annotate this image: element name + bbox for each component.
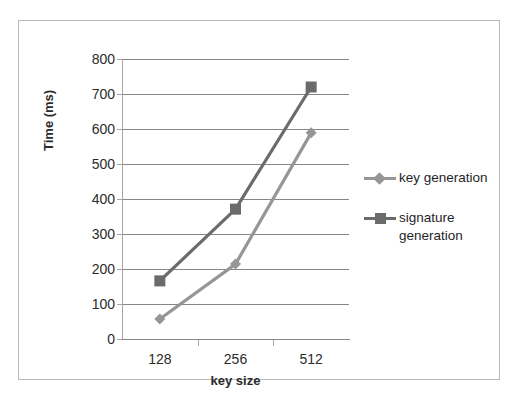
series-line-signature-generation (160, 87, 311, 281)
data-point-marker (230, 204, 241, 215)
legend-item-signature-generation[interactable]: signature generation (364, 209, 494, 245)
data-point-marker (154, 275, 165, 286)
legend-marker-diamond-icon (364, 170, 396, 186)
chart-frame: 0100200300400500600700800 Time (ms) 1282… (18, 20, 500, 380)
legend-item-key-generation[interactable]: key generation (364, 169, 494, 187)
legend-label-key-generation: key generation (399, 169, 488, 187)
legend-label-signature-generation: signature generation (399, 209, 463, 245)
series-line-key-generation (160, 133, 311, 319)
chart-legend: key generation signature generation (364, 169, 494, 268)
legend-label-line-1: signature (399, 210, 455, 225)
legend-marker-square-icon (364, 210, 396, 226)
x-axis-tick (198, 340, 199, 346)
x-axis-tick (273, 340, 274, 346)
data-point-marker (306, 82, 317, 93)
legend-label-line-2: generation (399, 228, 463, 243)
